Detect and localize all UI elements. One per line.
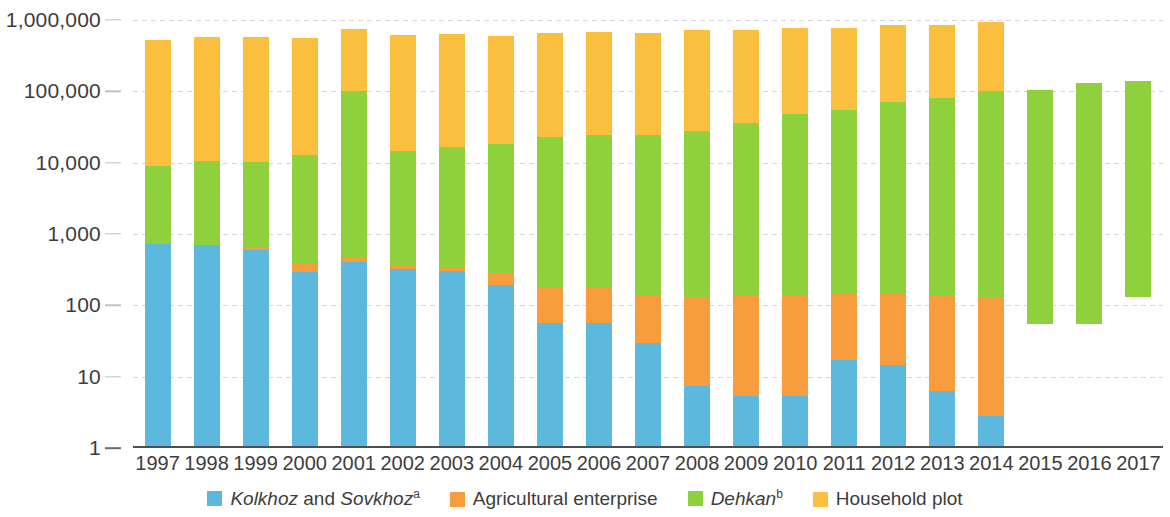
bar-segment-kolkhoz-sovkhoz[interactable] [243, 250, 269, 448]
bar-segment-dehkan[interactable] [1076, 83, 1102, 324]
bar-segment-kolkhoz-sovkhoz[interactable] [488, 285, 514, 448]
bar-segment-kolkhoz-sovkhoz[interactable] [341, 262, 367, 448]
bar-column[interactable] [1125, 20, 1151, 448]
bar-segment-household-plot[interactable] [488, 36, 514, 144]
bar-segment-agricultural-enterprise[interactable] [782, 296, 808, 396]
bar-segment-dehkan[interactable] [880, 102, 906, 294]
bar-segment-kolkhoz-sovkhoz[interactable] [684, 386, 710, 448]
bar-segment-dehkan[interactable] [194, 161, 220, 245]
bar-segment-household-plot[interactable] [243, 37, 269, 162]
bar-column[interactable] [684, 20, 710, 448]
bar-segment-agricultural-enterprise[interactable] [684, 297, 710, 386]
bar-column[interactable] [488, 20, 514, 448]
bar-segment-kolkhoz-sovkhoz[interactable] [929, 391, 955, 448]
bar-segment-dehkan[interactable] [243, 162, 269, 248]
bar-segment-household-plot[interactable] [292, 38, 318, 155]
bar-segment-household-plot[interactable] [586, 32, 612, 135]
bar-column[interactable] [880, 20, 906, 448]
bar-segment-agricultural-enterprise[interactable] [390, 265, 416, 269]
bar-segment-household-plot[interactable] [831, 28, 857, 110]
bar-segment-agricultural-enterprise[interactable] [929, 296, 955, 391]
bar-column[interactable] [1076, 20, 1102, 448]
bar-segment-household-plot[interactable] [880, 25, 906, 102]
bar-segment-agricultural-enterprise[interactable] [243, 248, 269, 250]
bar-column[interactable] [782, 20, 808, 448]
bar-segment-dehkan[interactable] [537, 137, 563, 288]
bar-segment-household-plot[interactable] [978, 22, 1004, 91]
bar-segment-dehkan[interactable] [684, 131, 710, 297]
bar-segment-household-plot[interactable] [733, 30, 759, 123]
bar-segment-agricultural-enterprise[interactable] [880, 294, 906, 365]
bar-column[interactable] [1027, 20, 1053, 448]
bar-segment-dehkan[interactable] [831, 110, 857, 295]
bar-segment-dehkan[interactable] [782, 114, 808, 296]
legend-item[interactable]: Kolkhoz and Sovkhoza [207, 487, 419, 510]
bar-column[interactable] [733, 20, 759, 448]
bar-column[interactable] [831, 20, 857, 448]
bar-segment-kolkhoz-sovkhoz[interactable] [880, 365, 906, 448]
bar-segment-kolkhoz-sovkhoz[interactable] [733, 396, 759, 448]
bar-segment-household-plot[interactable] [635, 33, 661, 136]
bar-column[interactable] [635, 20, 661, 448]
bar-segment-agricultural-enterprise[interactable] [488, 274, 514, 285]
bar-segment-household-plot[interactable] [537, 33, 563, 137]
bar-segment-household-plot[interactable] [145, 40, 171, 166]
legend-item[interactable]: Agricultural enterprise [450, 488, 658, 510]
bar-segment-household-plot[interactable] [390, 35, 416, 151]
bar-segment-dehkan[interactable] [635, 135, 661, 295]
bar-segment-kolkhoz-sovkhoz[interactable] [537, 323, 563, 448]
bar-column[interactable] [586, 20, 612, 448]
bar-segment-kolkhoz-sovkhoz[interactable] [292, 272, 318, 448]
bar-segment-household-plot[interactable] [929, 25, 955, 98]
bar-segment-kolkhoz-sovkhoz[interactable] [145, 244, 171, 448]
bar-segment-household-plot[interactable] [684, 30, 710, 131]
bar-segment-dehkan[interactable] [929, 98, 955, 296]
bar-segment-agricultural-enterprise[interactable] [537, 288, 563, 323]
bar-segment-household-plot[interactable] [341, 29, 367, 91]
bar-segment-kolkhoz-sovkhoz[interactable] [390, 269, 416, 448]
bar-segment-dehkan[interactable] [488, 144, 514, 274]
bar-column[interactable] [390, 20, 416, 448]
axis-baseline [133, 446, 1163, 449]
bar-segment-agricultural-enterprise[interactable] [635, 295, 661, 343]
bar-segment-agricultural-enterprise[interactable] [439, 267, 465, 271]
bar-column[interactable] [978, 20, 1004, 448]
legend-item[interactable]: Household plot [813, 488, 963, 510]
bar-column[interactable] [145, 20, 171, 448]
bar-segment-dehkan[interactable] [733, 123, 759, 296]
bar-column[interactable] [341, 20, 367, 448]
bar-segment-kolkhoz-sovkhoz[interactable] [439, 271, 465, 448]
y-axis-tick-mark [105, 162, 121, 163]
bar-segment-household-plot[interactable] [782, 28, 808, 114]
bar-segment-dehkan[interactable] [390, 151, 416, 264]
bar-column[interactable] [194, 20, 220, 448]
bar-segment-agricultural-enterprise[interactable] [292, 264, 318, 272]
bar-column[interactable] [537, 20, 563, 448]
bar-segment-agricultural-enterprise[interactable] [978, 297, 1004, 417]
bar-segment-kolkhoz-sovkhoz[interactable] [194, 245, 220, 448]
bar-segment-household-plot[interactable] [439, 34, 465, 147]
bar-segment-kolkhoz-sovkhoz[interactable] [782, 396, 808, 448]
bar-segment-dehkan[interactable] [1125, 81, 1151, 297]
bar-segment-agricultural-enterprise[interactable] [341, 257, 367, 263]
bar-segment-kolkhoz-sovkhoz[interactable] [831, 360, 857, 448]
bar-segment-dehkan[interactable] [978, 91, 1004, 296]
bar-segment-dehkan[interactable] [1027, 90, 1053, 324]
bar-segment-dehkan[interactable] [145, 166, 171, 244]
bar-segment-agricultural-enterprise[interactable] [586, 288, 612, 323]
bar-segment-agricultural-enterprise[interactable] [733, 296, 759, 396]
legend-item[interactable]: Dehkanb [688, 487, 783, 510]
bar-segment-kolkhoz-sovkhoz[interactable] [586, 323, 612, 448]
bar-segment-household-plot[interactable] [194, 37, 220, 161]
bar-segment-dehkan[interactable] [292, 155, 318, 264]
bar-column[interactable] [292, 20, 318, 448]
bar-segment-dehkan[interactable] [586, 135, 612, 287]
bar-segment-dehkan[interactable] [341, 91, 367, 257]
bar-segment-kolkhoz-sovkhoz[interactable] [635, 343, 661, 448]
bar-column[interactable] [439, 20, 465, 448]
bar-column[interactable] [929, 20, 955, 448]
bar-segment-kolkhoz-sovkhoz[interactable] [978, 416, 1004, 448]
bar-segment-agricultural-enterprise[interactable] [831, 294, 857, 360]
bar-segment-dehkan[interactable] [439, 147, 465, 267]
bar-column[interactable] [243, 20, 269, 448]
